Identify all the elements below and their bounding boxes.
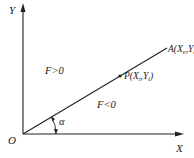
- point-p-dot: [118, 74, 121, 77]
- x-axis: [23, 132, 184, 137]
- line-oa: [23, 48, 167, 134]
- point-p-label: P(Xi,Yi): [123, 71, 153, 82]
- region-below-label: F<0: [96, 99, 116, 110]
- angle-arrow-bottom-icon: [54, 129, 58, 134]
- x-axis-arrow-icon: [175, 132, 184, 137]
- angle-alpha-arc: [51, 117, 58, 135]
- y-axis: [21, 3, 26, 134]
- point-a-label: A(Xe,Ye): [167, 44, 194, 55]
- linear-interpolation-diagram: Y X O A(Xe,Ye) P(Xi,Yi) F>0 F<0 α: [0, 0, 194, 158]
- angle-arrow-top-icon: [51, 117, 55, 122]
- region-above-label: F>0: [44, 65, 64, 76]
- y-axis-arrow-icon: [21, 3, 26, 12]
- origin-label: O: [8, 134, 16, 146]
- angle-alpha-label: α: [59, 116, 65, 127]
- x-axis-label: X: [175, 142, 184, 154]
- y-axis-label: Y: [9, 4, 17, 16]
